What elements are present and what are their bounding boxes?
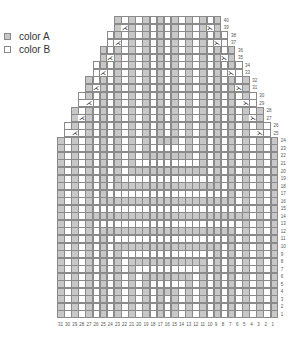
row-label: 18: [281, 184, 286, 189]
row-label: 34: [245, 63, 250, 68]
row-label: 20: [281, 169, 286, 174]
row-label: 24: [281, 138, 286, 143]
chart-cell: [271, 197, 279, 205]
chart-cell: [214, 16, 222, 24]
row-label: 32: [252, 78, 257, 83]
row-label: 30: [259, 93, 264, 98]
column-label: 26: [94, 322, 99, 327]
column-label: 12: [193, 322, 198, 327]
column-label: 30: [65, 322, 70, 327]
decrease-left-icon: ⋌: [85, 100, 92, 106]
chart-cell: [271, 265, 279, 273]
column-label: 22: [122, 322, 127, 327]
chart-cell: [271, 303, 279, 311]
decrease-left-icon: ⋌: [107, 55, 114, 61]
chart-cell: [271, 288, 279, 296]
chart-cell: [271, 250, 279, 258]
decrease-right-icon: ⋋: [249, 115, 256, 121]
column-label: 16: [165, 322, 170, 327]
row-label: 35: [238, 55, 243, 60]
row-label: 1: [281, 312, 284, 317]
row-label: 14: [281, 214, 286, 219]
chart-cell: [271, 243, 279, 251]
row-label: 37: [231, 40, 236, 45]
chart-cell: [263, 129, 271, 137]
column-label: 8: [222, 322, 225, 327]
chart-cell: [242, 76, 250, 84]
chart-cell: [242, 84, 250, 92]
decrease-left-icon: ⋌: [100, 70, 107, 76]
row-label: 12: [281, 229, 286, 234]
chart-cell: [249, 99, 257, 107]
row-label: 33: [245, 70, 250, 75]
decrease-left-icon: ⋌: [78, 115, 85, 121]
column-label: 11: [200, 322, 205, 327]
column-label: 28: [79, 322, 84, 327]
row-label: 8: [281, 259, 284, 264]
chart-cell: [271, 258, 279, 266]
row-label: 16: [281, 199, 286, 204]
column-label: 5: [243, 322, 246, 327]
column-label: 27: [86, 322, 91, 327]
row-label: 25: [274, 131, 279, 136]
decrease-right-icon: ⋋: [242, 100, 249, 106]
row-label: 23: [281, 146, 286, 151]
row-label: 2: [281, 304, 284, 309]
row-label: 29: [259, 101, 264, 106]
chart-cell: [228, 46, 236, 54]
decrease-right-icon: ⋋: [228, 70, 235, 76]
column-label: 19: [143, 322, 148, 327]
row-label: 36: [238, 48, 243, 53]
row-label: 21: [281, 161, 286, 166]
row-label: 6: [281, 274, 284, 279]
column-label: 25: [101, 322, 106, 327]
row-label: 15: [281, 206, 286, 211]
row-label: 13: [281, 221, 286, 226]
column-label: 24: [108, 322, 113, 327]
column-label: 9: [215, 322, 218, 327]
chart-cell: [271, 220, 279, 228]
chart-cell: [249, 92, 257, 100]
row-label: 4: [281, 289, 284, 294]
knitting-chart: 123456789101112131415161718192021222324⋌…: [0, 0, 306, 347]
chart-cell: [271, 152, 279, 160]
chart-cell: [256, 114, 264, 122]
row-label: 39: [224, 25, 229, 30]
decrease-right-icon: ⋋: [221, 55, 228, 61]
column-label: 10: [208, 322, 213, 327]
column-label: 14: [179, 322, 184, 327]
chart-cell: [271, 310, 279, 318]
chart-cell: [271, 159, 279, 167]
chart-cell: [235, 69, 243, 77]
row-label: 31: [252, 85, 257, 90]
chart-cell: [228, 54, 236, 62]
column-label: 6: [236, 322, 239, 327]
column-label: 4: [250, 322, 253, 327]
row-label: 28: [266, 108, 271, 113]
column-label: 13: [186, 322, 191, 327]
row-label: 40: [224, 18, 229, 23]
chart-cell: [271, 137, 279, 145]
chart-cell: [271, 190, 279, 198]
chart-cell: [235, 61, 243, 69]
column-label: 21: [129, 322, 134, 327]
chart-cell: [271, 212, 279, 220]
column-label: 20: [136, 322, 141, 327]
chart-cell: [271, 175, 279, 183]
decrease-left-icon: ⋌: [121, 25, 128, 31]
row-label: 11: [281, 236, 286, 241]
decrease-right-icon: ⋋: [214, 40, 221, 46]
row-label: 22: [281, 153, 286, 158]
column-label: 1: [272, 322, 275, 327]
row-label: 5: [281, 282, 284, 287]
column-label: 17: [158, 322, 163, 327]
chart-cell: [271, 235, 279, 243]
chart-cell: [271, 205, 279, 213]
column-label: 7: [229, 322, 232, 327]
decrease-left-icon: ⋌: [71, 130, 78, 136]
column-label: 15: [172, 322, 177, 327]
row-label: 3: [281, 297, 284, 302]
chart-cell: [271, 227, 279, 235]
decrease-left-icon: ⋌: [93, 85, 100, 91]
row-label: 10: [281, 244, 286, 249]
